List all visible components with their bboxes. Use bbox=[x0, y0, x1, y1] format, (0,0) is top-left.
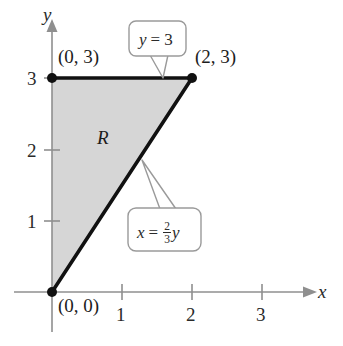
callout-top-lhs: y bbox=[139, 30, 147, 50]
callout-bottom-lhs: x bbox=[137, 223, 145, 243]
callout-top-text: y = 3 bbox=[139, 30, 173, 50]
x-axis-label: x bbox=[318, 282, 326, 301]
callout-bottom-rhs-var: y bbox=[172, 223, 180, 243]
x-tick-label-2: 2 bbox=[186, 305, 196, 324]
point-marker-top-left bbox=[47, 73, 57, 83]
callout-top-tail bbox=[150, 55, 168, 78]
math-figure-region-r: x y 1 2 3 1 2 3 (0, 0) (0, 3) (2, 3) R y… bbox=[0, 0, 343, 346]
point-label-top-right: (2, 3) bbox=[195, 47, 236, 66]
callout-bottom-text: x = 2 3 y bbox=[137, 220, 179, 245]
x-tick-label-1: 1 bbox=[116, 305, 126, 324]
y-tick-label-3: 3 bbox=[27, 69, 37, 88]
point-label-top-left: (0, 3) bbox=[58, 47, 99, 66]
point-label-origin: (0, 0) bbox=[58, 296, 99, 315]
point-marker-top-right bbox=[187, 73, 197, 83]
fraction-numerator: 2 bbox=[163, 220, 171, 232]
callout-bottom-equals: = bbox=[149, 223, 159, 243]
callout-bottom-tail bbox=[142, 160, 176, 209]
coordinate-plane-svg bbox=[0, 0, 343, 346]
y-tick-label-2: 2 bbox=[27, 141, 37, 160]
x-tick-label-3: 3 bbox=[256, 305, 266, 324]
callout-top-rhs: 3 bbox=[164, 30, 173, 50]
x-axis-arrow-icon bbox=[303, 287, 317, 298]
callout-bottom-fraction: 2 3 bbox=[163, 220, 171, 245]
point-marker-origin bbox=[47, 287, 57, 297]
callout-top-equals: = bbox=[151, 30, 161, 50]
fraction-denominator: 3 bbox=[163, 232, 171, 245]
region-label-r: R bbox=[97, 128, 109, 147]
y-tick-label-1: 1 bbox=[27, 212, 37, 231]
y-axis-label: y bbox=[43, 5, 51, 24]
